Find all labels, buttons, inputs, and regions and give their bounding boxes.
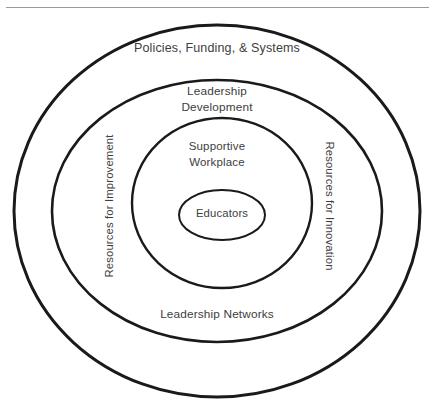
ring-label-leadership-networks: Leadership Networks xyxy=(117,307,317,322)
ring-label-resources-for-innovation: Resources for Innovation xyxy=(323,126,336,286)
labels-layer: Policies, Funding, & Systems Leadership … xyxy=(0,0,435,413)
ring-label-leadership-development: Leadership Development xyxy=(137,84,297,115)
ring-label-resources-for-improvement: Resources for Improvement xyxy=(103,126,116,286)
figure-root: Figure 2. Nested supports for educators … xyxy=(0,0,435,413)
ring-label-supportive-workplace: Supportive Workplace xyxy=(147,139,287,170)
ring-label-educators: Educators xyxy=(177,206,267,220)
ring-label-policies-funding-systems: Policies, Funding, & Systems xyxy=(97,41,337,56)
